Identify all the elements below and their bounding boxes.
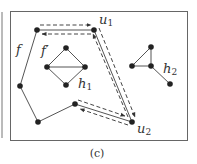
label-h2: h2 [163,61,177,77]
label-h1: h1 [78,76,92,92]
diagram-canvas: f f′ h1 h2 u1 u2 (c) [0,0,197,164]
label-u2: u2 [137,121,151,137]
label-f: f [15,42,23,57]
dashed-walk [40,25,135,125]
label-f-prime: f′ [40,43,49,58]
label-u1: u1 [99,12,113,28]
figure-caption: (c) [90,147,105,160]
